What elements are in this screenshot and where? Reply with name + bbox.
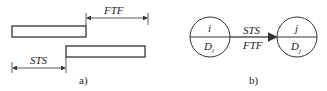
link-sts-label: STS bbox=[243, 24, 260, 36]
caption-b: b) bbox=[249, 74, 258, 86]
diagram-canvas bbox=[0, 0, 327, 91]
ftf-label: FTF bbox=[104, 4, 124, 16]
node-j-label: j bbox=[295, 22, 298, 34]
caption-a: a) bbox=[79, 74, 88, 86]
sts-label: STS bbox=[30, 54, 47, 66]
activity-bar-i bbox=[12, 26, 86, 37]
node-j-duration: Dj bbox=[291, 40, 301, 55]
node-i-label: i bbox=[208, 22, 211, 34]
activity-bar-j bbox=[66, 46, 145, 57]
node-i-duration: Di bbox=[204, 40, 214, 55]
link-ftf-label: FTF bbox=[243, 39, 263, 51]
